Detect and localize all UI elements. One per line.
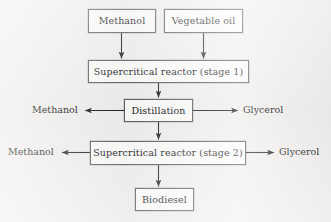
node-biodiesel: Biodiesel	[135, 188, 194, 211]
node-label: Distillation	[131, 106, 185, 116]
label-distillation-glycerol-output: Glycerol	[243, 105, 283, 115]
node-label: Vegetable oil	[172, 16, 236, 26]
node-label: Methanol	[99, 16, 146, 26]
node-supercritical-reactor-stage-1: Supercritical reactor (stage 1)	[88, 60, 249, 83]
label-stage2-methanol-output: Methanol	[8, 147, 54, 157]
node-label: Supercritical reactor (stage 1)	[94, 67, 244, 77]
node-label: Supercritical reactor (stage 2)	[93, 148, 243, 158]
node-distillation: Distillation	[124, 99, 193, 122]
node-vegetable-oil: Vegetable oil	[164, 9, 243, 33]
label-stage2-glycerol-output: Glycerol	[279, 147, 319, 157]
node-supercritical-reactor-stage-2: Supercritical reactor (stage 2)	[90, 141, 246, 165]
label-distillation-methanol-output: Methanol	[32, 105, 78, 115]
node-label: Biodiesel	[142, 195, 187, 205]
node-methanol-feed: Methanol	[88, 9, 156, 33]
process-flow-diagram: Methanol Vegetable oil Supercritical rea…	[0, 0, 331, 222]
